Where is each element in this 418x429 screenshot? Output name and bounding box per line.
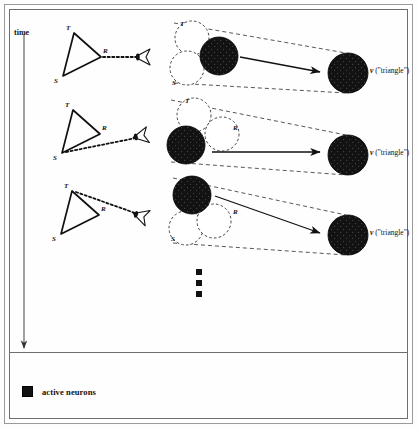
stimulus-vertex-label-s-row-3: S <box>52 235 56 243</box>
legend-swatch-active-neurons <box>22 386 33 397</box>
envelope-line-bottom-row-1 <box>174 83 346 93</box>
legend-label-active-neurons: active neurons <box>42 387 96 397</box>
output-neuron-label-row-2: v ("triangle") <box>370 148 409 157</box>
eye-icon-row-3 <box>131 206 150 226</box>
ellipsis-dot-3 <box>196 291 202 297</box>
neuron-circle-label-s-row-1: S <box>172 79 176 87</box>
neuron-circle-r-row-2 <box>205 117 239 151</box>
neuron-circle-label-s-row-2: S <box>170 150 174 158</box>
output-neuron-label-row-1: v ("triangle") <box>370 66 409 75</box>
neuron-circle-label-t-row-3: T <box>185 180 189 188</box>
stimulus-triangle-row-1 <box>63 33 101 76</box>
stimulus-vertex-label-t-row-1: T <box>66 24 70 32</box>
neuron-circle-label-t-row-2: T <box>185 97 189 105</box>
legend: active neurons <box>22 386 96 397</box>
figure-root: time TSRTSRv ("triangle")TSRTRSv ("trian… <box>0 0 418 429</box>
neuron-circle-t-row-3 <box>173 176 211 214</box>
neuron-circle-label-r-row-3: R <box>233 208 238 216</box>
envelope-line-bottom-row-3 <box>173 243 346 255</box>
envelope-line-bottom-row-2 <box>171 162 346 175</box>
neuron-circle-label-s-row-3: S <box>171 235 175 243</box>
projection-arrow-row-3 <box>215 196 320 233</box>
diagram-canvas <box>0 0 418 429</box>
output-neuron-row-3 <box>328 215 368 255</box>
stimulus-vertex-label-r-row-1: R <box>103 47 108 55</box>
projection-arrow-row-1 <box>240 57 320 72</box>
stimulus-vertex-label-t-row-3: T <box>64 182 68 190</box>
neuron-circle-s-row-2 <box>167 126 205 164</box>
neuron-circle-label-t-row-1: T <box>180 20 184 28</box>
output-neuron-row-1 <box>328 53 368 93</box>
eye-icon-row-1 <box>135 49 150 65</box>
eye-icon-row-2 <box>132 127 150 146</box>
stimulus-vertex-label-r-row-2: R <box>102 124 107 132</box>
neuron-circle-r-row-1 <box>200 37 238 75</box>
time-axis-label: time <box>14 28 29 37</box>
stimulus-vertex-label-s-row-2: S <box>53 154 57 162</box>
stimulus-vertex-label-t-row-2: T <box>65 101 69 109</box>
ellipsis-dot-2 <box>196 280 202 286</box>
stimulus-vertex-label-r-row-3: R <box>101 205 106 213</box>
neuron-circle-label-r-row-1: R <box>231 45 236 53</box>
stimulus-vertex-label-s-row-1: S <box>54 77 58 85</box>
neuron-circle-label-r-row-2: R <box>233 124 238 132</box>
ellipsis-dot-1 <box>196 269 202 275</box>
output-neuron-row-2 <box>328 135 368 175</box>
output-neuron-label-row-3: v ("triangle") <box>370 228 409 237</box>
